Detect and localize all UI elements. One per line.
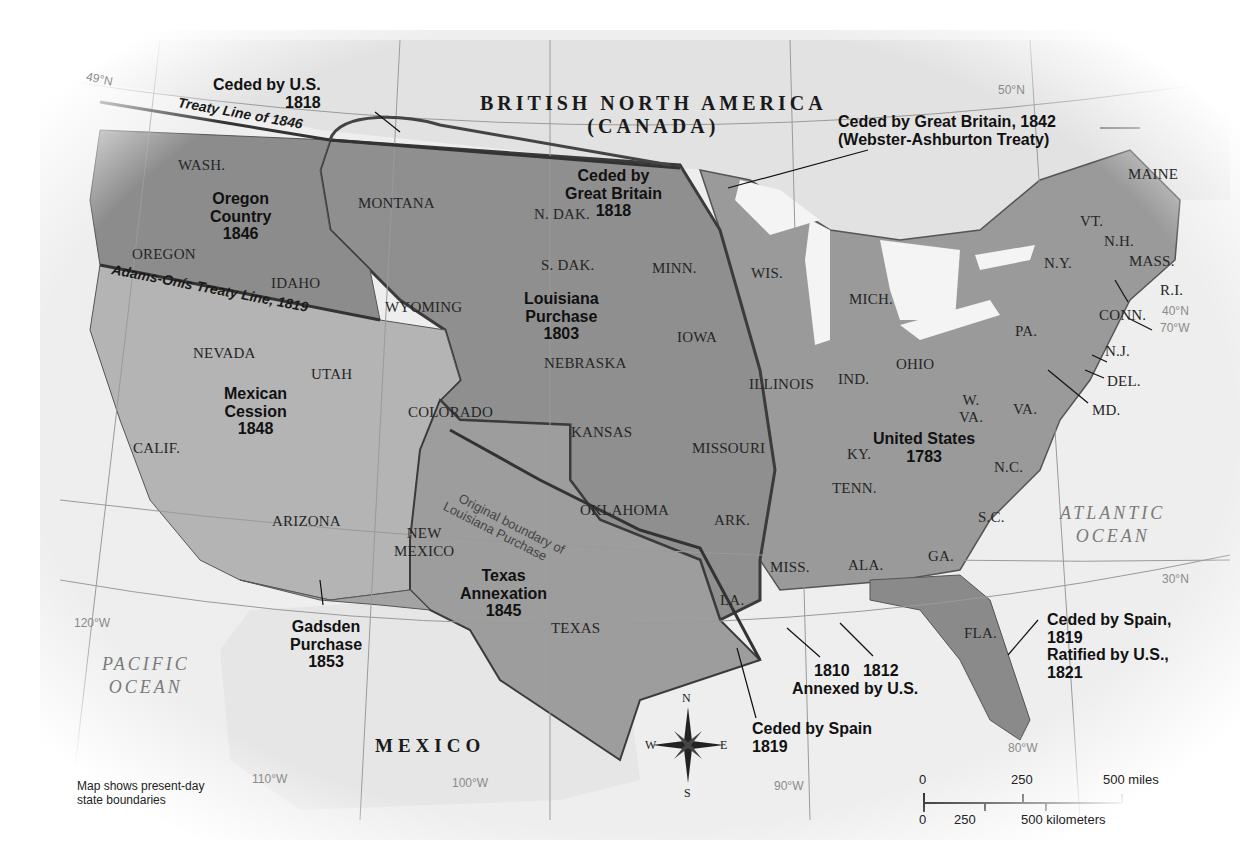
scale-km-500: 500 kilometers <box>1021 813 1106 826</box>
label-line: 1803 <box>524 325 599 343</box>
state-label-ohio: OHIO <box>896 357 934 372</box>
graticule-label-110w: 110°W <box>252 773 287 785</box>
label-line: 1810 1812 <box>814 662 918 680</box>
scale-km-250: 250 <box>954 813 976 826</box>
label-line: Ceded by Spain <box>752 720 872 738</box>
graticule-label-100w: 100°W <box>452 777 488 789</box>
state-label-r-i: R.I. <box>1160 283 1183 298</box>
compass-n: N <box>682 692 691 704</box>
graticule-label-90w: 90°W <box>774 780 803 792</box>
label-line: Country <box>210 208 271 226</box>
state-label-texas: TEXAS <box>551 621 600 636</box>
label-line: Annexed by U.S. <box>792 680 918 698</box>
label-line: 1845 <box>460 602 547 620</box>
state-label-ind: IND. <box>838 372 869 387</box>
state-label-calif: CALIF. <box>133 441 180 456</box>
label-line: 1818 <box>213 94 321 112</box>
label-line: Purchase <box>524 308 599 326</box>
state-label-s-c: S.C. <box>978 510 1005 525</box>
region-label-ceded-by-great-britain-1842: Ceded by Great Britain, 1842 (Webster-As… <box>838 113 1056 148</box>
scale-miles-250: 250 <box>1011 773 1033 786</box>
state-label-n-h: N.H. <box>1104 234 1134 249</box>
compass-s: S <box>684 787 691 799</box>
state-label-arizona: ARIZONA <box>272 514 341 529</box>
year-1810: 1810 <box>814 662 850 679</box>
state-label-wash: WASH. <box>178 158 225 173</box>
label-line: state boundaries <box>77 793 204 807</box>
region-label-ceded-by-us-1818: Ceded by U.S. 1818 <box>213 76 321 111</box>
state-label-maine: MAINE <box>1128 167 1178 182</box>
label-line: Great Britain <box>565 185 662 203</box>
state-label-iowa: IOWA <box>677 330 717 345</box>
state-label-wis: WIS. <box>751 266 783 281</box>
compass-w: W <box>645 739 656 751</box>
year-1812: 1812 <box>863 662 899 679</box>
label-line: VA. <box>959 409 983 426</box>
state-label-ark: ARK. <box>714 513 750 528</box>
label-line: United States <box>873 430 975 448</box>
state-label-miss: MISS. <box>770 560 810 575</box>
label-line: Ceded by Great Britain, 1842 <box>838 113 1056 131</box>
state-label-oregon: OREGON <box>132 247 196 262</box>
ocean-label-atlantic: ATLANTIC OCEAN <box>1060 502 1165 547</box>
label-line: Map shows present-day <box>77 779 204 793</box>
label-line: OCEAN <box>102 676 190 699</box>
region-label-oregon-country: Oregon Country 1846 <box>210 190 271 243</box>
label-line: 1819 <box>752 738 872 756</box>
graticule-label-120w: 120°W <box>74 617 110 629</box>
state-label-w-va: W. VA. <box>959 392 983 427</box>
state-label-mich: MICH. <box>849 292 893 307</box>
state-label-ga: GA. <box>928 549 954 564</box>
label-line: Annexation <box>460 585 547 603</box>
state-label-new-mexico: NEW MEXICO <box>394 524 454 560</box>
graticule-label-40n: 40°N <box>1162 305 1189 317</box>
label-line: 1819 <box>1047 629 1171 647</box>
state-label-conn: CONN. <box>1099 308 1146 323</box>
state-label-del: DEL. <box>1107 374 1141 389</box>
label-line: NEW <box>394 524 454 542</box>
label-line: 1848 <box>224 420 287 438</box>
scale-km-0: 0 <box>919 813 926 826</box>
region-label-louisiana-purchase: Louisiana Purchase 1803 <box>524 290 599 343</box>
state-label-nebraska: NEBRASKA <box>544 356 626 371</box>
label-line: OCEAN <box>1060 525 1165 548</box>
label-line: Gadsden <box>290 618 362 636</box>
state-label-ky: KY. <box>847 447 871 462</box>
region-label-gadsden-purchase: Gadsden Purchase 1853 <box>290 618 362 671</box>
label-line: 1821 <box>1047 664 1171 682</box>
state-label-nevada: NEVADA <box>193 346 256 361</box>
state-label-pa: PA. <box>1015 324 1037 339</box>
map-note: Map shows present-day state boundaries <box>77 779 204 808</box>
state-label-illinois: ILLINOIS <box>749 377 814 392</box>
state-label-n-dak: N. DAK. <box>534 207 590 222</box>
state-label-n-c: N.C. <box>994 460 1023 475</box>
label-line: Ceded by <box>565 167 662 185</box>
label-line: ATLANTIC <box>1060 502 1165 525</box>
state-label-montana: MONTANA <box>358 196 435 211</box>
label-line: 1853 <box>290 653 362 671</box>
label-line: Ceded by Spain, <box>1047 611 1171 629</box>
state-label-minn: MINN. <box>652 261 697 276</box>
state-label-colorado: COLORADO <box>408 405 493 420</box>
state-label-mass: MASS. <box>1129 254 1175 269</box>
graticule-label-70w: 70°W <box>1160 322 1189 334</box>
label-line: Oregon <box>210 190 271 208</box>
ocean-label-pacific: PACIFIC OCEAN <box>102 653 190 698</box>
state-label-oklahoma: OKLAHOMA <box>580 503 669 518</box>
state-label-idaho: IDAHO <box>271 276 320 291</box>
region-label-ceded-by-spain-1819: Ceded by Spain 1819 <box>752 720 872 755</box>
state-label-va: VA. <box>1013 402 1037 417</box>
region-label-texas-annexation: Texas Annexation 1845 <box>460 567 547 620</box>
region-label-ceded-by-spain-florida: Ceded by Spain, 1819 Ratified by U.S., 1… <box>1047 611 1171 681</box>
region-label-united-states-1783: United States 1783 <box>873 430 975 465</box>
label-line: 1783 <box>873 448 975 466</box>
label-line: (CANADA) <box>480 115 827 138</box>
label-line: Ratified by U.S., <box>1047 646 1171 664</box>
state-label-fla: FLA. <box>964 626 997 641</box>
region-label-annexed-by-us: 1810 1812 Annexed by U.S. <box>792 662 918 697</box>
label-line: PACIFIC <box>102 653 190 676</box>
state-label-n-j: N.J. <box>1105 344 1130 359</box>
state-label-kansas: KANSAS <box>571 425 632 440</box>
state-label-ala: ALA. <box>848 558 883 573</box>
state-label-vt: VT. <box>1080 214 1103 229</box>
